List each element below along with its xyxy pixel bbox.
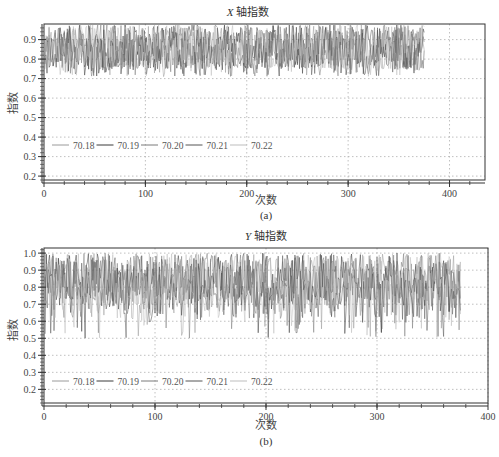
x-axis-label: 次数 <box>255 418 277 431</box>
data-series <box>45 253 460 338</box>
y-tick-label: 1.0 <box>24 248 37 259</box>
y-tick-label: 0.3 <box>24 367 37 378</box>
y-tick-label: 0.5 <box>24 112 37 123</box>
legend: 70.1870.1970.2070.2170.22 <box>52 141 273 151</box>
legend-item: 70.21 <box>207 377 229 387</box>
legend: 70.1870.1970.2070.2170.22 <box>52 377 273 387</box>
caption: (b) <box>260 435 273 448</box>
y-tick-label: 0.7 <box>24 73 37 84</box>
y-tick-label: 0.9 <box>24 265 37 276</box>
y-tick-label: 0.3 <box>24 151 37 162</box>
legend-item: 70.22 <box>251 141 273 151</box>
x-tick-label: 200 <box>239 188 254 199</box>
chart-title: X 轴指数 <box>226 5 269 18</box>
legend-item: 70.19 <box>118 377 140 387</box>
legend-item: 70.20 <box>162 377 184 387</box>
legend-item: 70.21 <box>207 141 229 151</box>
x-tick-label: 0 <box>42 188 47 199</box>
y-tick-label: 0.6 <box>24 316 37 327</box>
legend-item: 70.19 <box>118 141 140 151</box>
y-tick-label: 0.5 <box>24 333 37 344</box>
y-tick-label: 0.2 <box>24 384 37 395</box>
y-axis: 0.20.30.40.50.60.70.80.9 <box>24 24 47 183</box>
legend-item: 70.18 <box>73 141 95 151</box>
x-tick-label: 100 <box>138 188 153 199</box>
chart-x-axis-index: X 轴指数 0.20.30.40.50.60.70.80.9 010020030… <box>6 5 485 222</box>
y-tick-label: 0.8 <box>24 54 37 65</box>
caption: (a) <box>260 209 273 222</box>
chart-title: Y 轴指数 <box>245 229 287 242</box>
x-tick-label: 300 <box>370 411 385 422</box>
y-tick-label: 0.4 <box>24 132 37 143</box>
y-axis: 0.20.30.40.50.60.70.80.91.0 <box>24 248 47 406</box>
legend-item: 70.22 <box>251 377 273 387</box>
data-series <box>45 25 424 77</box>
legend-item: 70.20 <box>162 141 184 151</box>
x-tick-label: 400 <box>481 411 496 422</box>
figure: X 轴指数 0.20.30.40.50.60.70.80.9 010020030… <box>0 0 499 457</box>
y-tick-label: 0.4 <box>24 350 37 361</box>
x-tick-label: 300 <box>341 188 356 199</box>
y-tick-label: 0.6 <box>24 93 37 104</box>
x-axis-label: 次数 <box>255 193 277 206</box>
y-tick-label: 0.2 <box>24 171 37 182</box>
y-tick-label: 0.9 <box>24 34 37 45</box>
y-tick-label: 0.8 <box>24 282 37 293</box>
legend-item: 70.18 <box>73 377 95 387</box>
y-axis-label: 指数 <box>6 92 19 114</box>
x-tick-label: 0 <box>42 411 47 422</box>
x-tick-label: 400 <box>442 188 457 199</box>
x-tick-label: 100 <box>148 411 163 422</box>
chart-y-axis-index: Y 轴指数 0.20.30.40.50.60.70.80.91.0 010020… <box>6 229 496 448</box>
y-tick-label: 0.7 <box>24 299 37 310</box>
y-axis-label: 指数 <box>6 319 19 341</box>
